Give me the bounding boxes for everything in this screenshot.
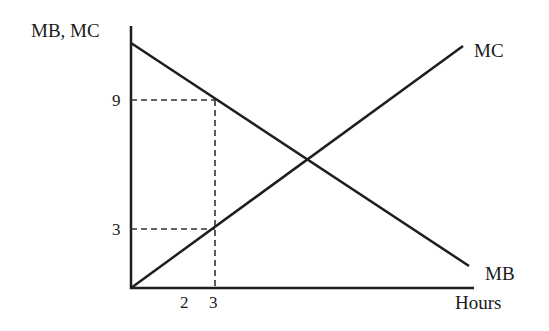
y-axis-label: MB, MC: [31, 20, 100, 41]
x-tick-3: 3: [209, 293, 218, 312]
mb-mc-chart: MB, MC MC MB Hours 9 3 2 3: [0, 0, 549, 331]
y-tick-9: 9: [112, 91, 121, 110]
x-axis-label: Hours: [455, 292, 501, 313]
mb-curve-label: MB: [485, 263, 515, 284]
mc-curve: [131, 46, 463, 288]
mb-curve: [131, 43, 469, 266]
x-tick-2: 2: [180, 293, 189, 312]
y-tick-3: 3: [112, 220, 121, 239]
mc-curve-label: MC: [474, 40, 504, 61]
